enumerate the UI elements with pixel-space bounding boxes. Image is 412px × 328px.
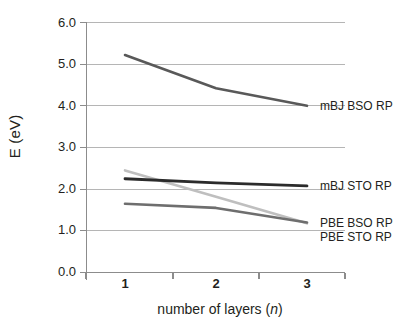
y-axis-tick-labels: 6.0 5.0 4.0 3.0 2.0 1.0 0.0 [34, 0, 76, 328]
y-tick-label: 6.0 [34, 16, 76, 29]
x-axis-title-post: ) [278, 301, 283, 317]
y-tick-label: 3.0 [34, 140, 76, 153]
y-axis-ticks [80, 23, 86, 273]
series-label-pbe-sto-rp: PBE STO RP [320, 230, 392, 244]
x-tick-label: 3 [287, 277, 327, 290]
x-axis-title-variable: n [270, 301, 278, 317]
y-tick-label: 5.0 [34, 57, 76, 70]
y-axis-title: E (eV) [6, 97, 23, 177]
y-tick-label: 1.0 [34, 223, 76, 236]
series-line-pbe-bso [125, 204, 307, 223]
series-line-mbj-bso [125, 55, 307, 106]
series-line-pbe-sto [125, 170, 307, 223]
x-axis-title: number of layers (n) [85, 301, 355, 317]
x-tick-label: 2 [196, 277, 236, 290]
x-tick-label: 1 [105, 277, 145, 290]
series-label-mbj-bso-rp: mBJ BSO RP [320, 99, 393, 113]
chart-figure: E (eV) 6.0 5.0 4.0 3.0 2.0 1.0 0.0 [0, 0, 412, 328]
series-line-mbj-sto [125, 179, 307, 186]
series-label-pbe-bso-rp: PBE BSO RP [320, 216, 393, 230]
y-tick-label: 0.0 [34, 265, 76, 278]
y-tick-label: 4.0 [34, 99, 76, 112]
x-axis-title-pre: number of layers ( [157, 301, 270, 317]
series-label-mbj-sto-rp: mBJ STO RP [320, 179, 392, 193]
y-tick-label: 2.0 [34, 182, 76, 195]
